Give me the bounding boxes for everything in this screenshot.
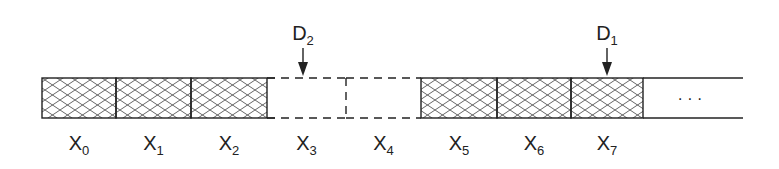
cell-label-x2: X2 [219, 132, 240, 158]
cell-label-x5-subscript: 5 [462, 143, 469, 158]
filled-cell-rect [42, 78, 116, 118]
pointer-label-d1-subscript: 1 [611, 33, 618, 48]
cell-x3: X3 [267, 78, 346, 158]
cell-x7: X7 [571, 78, 643, 158]
cell-label-x6: X6 [524, 132, 545, 158]
cell-x6: X6 [497, 78, 571, 158]
cell-label-x1: X1 [143, 132, 164, 158]
cell-label-x4-subscript: 4 [387, 143, 394, 158]
pointer-label-d2: D2 [292, 22, 314, 48]
arrow-down-icon [602, 62, 612, 76]
cell-label-x2-main: X [219, 132, 232, 154]
cells-layer: X0X1X2X3X4X5X6X7· · · [42, 78, 743, 158]
pointer-d1: D1 [596, 22, 618, 76]
cell-x1: X1 [116, 78, 191, 158]
cell-label-x5: X5 [449, 132, 470, 158]
cell-label-x1-subscript: 1 [157, 143, 164, 158]
filled-cell-rect [191, 78, 267, 118]
cell-label-x3-main: X [296, 132, 309, 154]
buffer-diagram: X0X1X2X3X4X5X6X7· · · D2D1 [0, 0, 779, 169]
cell-label-x6-main: X [524, 132, 537, 154]
filled-cell-rect [571, 78, 643, 118]
cell-label-x4-main: X [373, 132, 386, 154]
cell-x2: X2 [191, 78, 267, 158]
arrow-down-icon [298, 62, 308, 76]
ellipsis: · · · [678, 90, 703, 107]
pointer-label-d2-subscript: 2 [307, 33, 314, 48]
cell-label-x3: X3 [296, 132, 317, 158]
cell-label-x2-subscript: 2 [232, 143, 239, 158]
cell-label-x3-subscript: 3 [310, 143, 317, 158]
pointer-d2: D2 [292, 22, 314, 76]
cell-x0: X0 [42, 78, 116, 158]
cell-label-x0: X0 [69, 132, 90, 158]
cell-label-x7-subscript: 7 [610, 143, 617, 158]
filled-cell-rect [497, 78, 571, 118]
cell-label-x7-main: X [597, 132, 610, 154]
cell-x5: X5 [421, 78, 497, 158]
cell-x4: X4 [346, 78, 421, 158]
cell-label-x0-main: X [69, 132, 82, 154]
cell-label-x6-subscript: 6 [537, 143, 544, 158]
pointer-label-d1: D1 [596, 22, 618, 48]
cell-label-x0-subscript: 0 [82, 143, 89, 158]
tail-region: · · · [643, 78, 743, 118]
pointer-label-d1-main: D [596, 22, 610, 44]
filled-cell-rect [421, 78, 497, 118]
cell-label-x1-main: X [143, 132, 156, 154]
cell-label-x4: X4 [373, 132, 394, 158]
cell-label-x7: X7 [597, 132, 618, 158]
pointer-label-d2-main: D [292, 22, 306, 44]
cell-label-x5-main: X [449, 132, 462, 154]
filled-cell-rect [116, 78, 191, 118]
pointers-layer: D2D1 [292, 22, 618, 76]
